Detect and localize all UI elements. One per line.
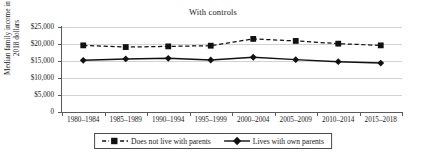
data-point-marker-diamond: [250, 54, 257, 61]
y-axis-tick-mark: [58, 95, 62, 96]
x-axis-tick-mark: [232, 112, 233, 116]
y-axis-tick-mark: [58, 44, 62, 45]
data-point-marker-square: [250, 36, 256, 42]
chart-legend: Does not live with parents Lives with ow…: [94, 133, 332, 149]
legend-label: Lives with own parents: [253, 137, 324, 146]
y-axis-tick-mark: [58, 27, 62, 28]
data-point-marker-square: [80, 42, 86, 48]
data-point-marker-square: [208, 43, 214, 49]
x-axis-tick-mark: [360, 112, 361, 116]
x-axis-tick-label: 2015–2018: [365, 116, 397, 124]
x-axis-tick-label: 1980–1984: [67, 116, 99, 124]
x-axis-tick-label: 2005–2009: [280, 116, 312, 124]
x-axis-tick-mark: [317, 112, 318, 116]
x-axis-tick-label: 1990–1994: [152, 116, 184, 124]
data-point-marker-square: [165, 43, 171, 49]
data-point-marker-diamond: [207, 57, 214, 64]
x-axis-tick-mark: [275, 112, 276, 116]
legend-dashed-square-marker-icon: [102, 136, 128, 146]
x-axis-tick-mark: [190, 112, 191, 116]
x-axis-tick-mark: [62, 112, 63, 116]
data-point-marker-diamond: [165, 55, 172, 62]
data-point-marker-square: [123, 44, 129, 50]
x-axis-tick-label: 1995–1999: [195, 116, 227, 124]
data-point-marker-square: [335, 41, 341, 47]
y-axis-tick-mark: [58, 61, 62, 62]
data-point-marker-square: [293, 38, 299, 44]
legend-label: Does not live with parents: [131, 137, 211, 146]
x-axis-tick-label: 2000–2004: [237, 116, 269, 124]
legend-solid-diamond-marker-icon: [224, 136, 250, 146]
data-point-marker-diamond: [292, 56, 299, 63]
data-point-marker-diamond: [122, 56, 129, 63]
x-axis-tick-label: 2010–2014: [322, 116, 354, 124]
x-axis-tick-label: 1985–1989: [110, 116, 142, 124]
legend-entry-lives-with-own-parents[interactable]: Lives with own parents: [224, 136, 324, 146]
data-point-marker-diamond: [80, 57, 87, 64]
chart-figure: With controls Median family income in 20…: [0, 0, 426, 156]
y-axis-tick-mark: [58, 78, 62, 79]
legend-entry-does-not-live-with-parents[interactable]: Does not live with parents: [102, 136, 211, 146]
data-point-marker-square: [378, 42, 384, 48]
x-axis-tick-mark: [402, 112, 403, 116]
data-point-marker-diamond: [377, 60, 384, 67]
x-axis-tick-mark: [147, 112, 148, 116]
x-axis-tick-mark: [105, 112, 106, 116]
data-point-marker-diamond: [335, 58, 342, 65]
